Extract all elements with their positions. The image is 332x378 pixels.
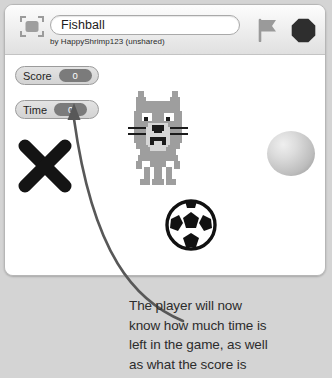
project-player-window: Fishball by HappyShrimp123 (unshared) Sc… <box>4 4 326 276</box>
watcher-score-value: 0 <box>59 69 92 82</box>
player-toolbar: Fishball by HappyShrimp123 (unshared) <box>5 5 325 54</box>
watcher-score[interactable]: Score 0 <box>15 66 99 85</box>
project-title-value: Fishball <box>61 18 105 32</box>
annotation-line: know how much time is <box>129 316 329 336</box>
presentation-mode-icon[interactable] <box>20 16 44 37</box>
annotation-line: left in the game, as well <box>129 335 329 355</box>
watcher-time-label: Time <box>23 104 47 116</box>
gray-ball-sprite[interactable] <box>267 131 315 176</box>
watcher-time[interactable]: Time 0 <box>15 100 99 119</box>
project-stage[interactable]: Score 0 Time 0 <box>5 54 325 276</box>
x-mark-sprite[interactable] <box>17 138 73 194</box>
watcher-score-label: Score <box>23 70 52 82</box>
pixel-cat-sprite[interactable] <box>128 91 196 191</box>
annotation-line: as what the score is <box>129 355 329 375</box>
annotation-text: The player will now know how much time i… <box>129 296 329 374</box>
soccer-ball-sprite[interactable] <box>165 199 217 251</box>
watcher-time-value: 0 <box>54 103 87 116</box>
annotation-line: The player will now <box>129 296 329 316</box>
project-author-label: by HappyShrimp123 (unshared) <box>50 37 165 46</box>
green-flag-icon[interactable] <box>257 18 279 42</box>
stop-sign-icon[interactable] <box>291 18 316 43</box>
project-title-input[interactable]: Fishball <box>50 15 240 35</box>
